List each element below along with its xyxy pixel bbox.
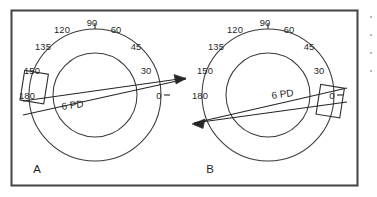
panel-b-degree-label-135: 135 [208, 41, 224, 52]
panel-a-degree-label-120: 120 [54, 24, 70, 35]
panel-b-degree-label-180: 180 [192, 90, 208, 101]
panel-b-degree-label-90: 90 [260, 17, 271, 28]
panel-a-degree-label-135: 135 [35, 41, 51, 52]
panel-b-degree-label-60: 60 [284, 24, 295, 35]
panel-a-degree-label-180: 180 [19, 90, 35, 101]
panel-b-degree-label-0: 0 [329, 90, 334, 101]
figure-root: 0 30 45 60 90 120 135 150 180 6 PD A [0, 0, 377, 197]
panel-a-degree-label-150: 150 [24, 65, 40, 76]
panel-a-letter: A [33, 163, 41, 175]
panel-b-letter: B [206, 163, 214, 175]
prism-axis-figure: 0 30 45 60 90 120 135 150 180 6 PD A [0, 0, 377, 197]
panel-a-degree-label-60: 60 [111, 24, 122, 35]
scan-artifacts [370, 16, 372, 72]
panel-a-degree-label-0: 0 [156, 90, 161, 101]
panel-a-degree-label-90: 90 [87, 17, 98, 28]
panel-a-degree-label-45: 45 [131, 41, 142, 52]
panel-b-degree-label-30: 30 [314, 65, 325, 76]
panel-b-degree-label-120: 120 [227, 24, 243, 35]
panel-b-degree-label-150: 150 [197, 65, 213, 76]
panel-a-degree-label-30: 30 [141, 65, 152, 76]
panel-b-degree-label-45: 45 [304, 41, 315, 52]
